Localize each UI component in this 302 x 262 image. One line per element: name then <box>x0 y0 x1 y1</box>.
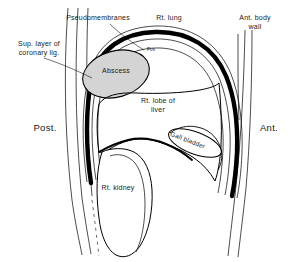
label-rt-kidney: Rt. kidney <box>96 184 140 193</box>
label-pus: Pus <box>142 47 160 52</box>
right-kidney-outline <box>97 149 152 257</box>
anatomical-diagram: Pseudomembranes Rt. lung Ant. body wall … <box>0 0 302 262</box>
label-rt-lobe-of-liver: Rt. lobe of liver <box>133 97 183 114</box>
label-pseudomembranes: Pseudomembranes <box>62 14 134 23</box>
label-abscess: Abscess <box>96 67 136 76</box>
label-ant-body-wall: Ant. body wall <box>231 14 279 31</box>
label-anterior: Ant. <box>254 124 284 133</box>
label-posterior: Post. <box>28 124 62 133</box>
label-sup-layer-coronary-lig: Sup. layer of coronary lig. <box>6 40 72 57</box>
anterior-body-wall-lines <box>228 30 252 257</box>
label-rt-lung: Rt. lung <box>148 14 190 23</box>
